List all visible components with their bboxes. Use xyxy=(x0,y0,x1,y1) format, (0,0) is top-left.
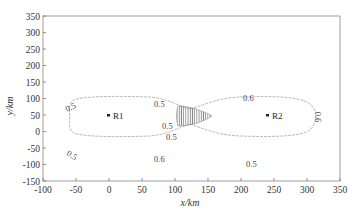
contour-label: 0.6 xyxy=(313,112,323,123)
y-tick-label: -100 xyxy=(23,160,41,170)
contour-label: 0.6 xyxy=(154,154,165,164)
x-tick-label: 150 xyxy=(201,185,216,195)
y-axis xyxy=(43,16,46,181)
y-tick-label: 150 xyxy=(26,78,41,88)
y-tick-label: 250 xyxy=(26,45,41,55)
y-tick-label: 0 xyxy=(35,127,40,137)
x-tick-label: 350 xyxy=(333,185,348,195)
y-tick-label: 100 xyxy=(26,94,41,104)
x-tick-label: 300 xyxy=(300,185,315,195)
y-tick-label: 350 xyxy=(26,12,41,22)
x-tick-label: 50 xyxy=(137,185,147,195)
contour-label: 0.5 xyxy=(162,121,173,131)
y-tick-label: -50 xyxy=(27,144,40,154)
x-tick-label: 0 xyxy=(107,185,112,195)
y-axis-label: y/km xyxy=(4,97,15,117)
x-tick-label: 250 xyxy=(267,185,282,195)
station-r2-marker xyxy=(266,114,269,117)
station-r1-label: R1 xyxy=(113,111,124,121)
x-tick-label: -100 xyxy=(34,185,52,195)
y-tick-label: 300 xyxy=(26,28,41,38)
y-tick-label: 200 xyxy=(26,61,41,71)
contour-chart: 350 300 250 200 150 100 50 0 -50 -100 -1… xyxy=(0,0,357,217)
x-tick-label: 200 xyxy=(234,185,249,195)
x-tick-label: -50 xyxy=(70,185,83,195)
contour-label: 0.5 xyxy=(65,148,79,162)
contour-label: 0.5 xyxy=(64,100,78,114)
contour-label: 0.5 xyxy=(166,132,177,142)
y-tick-label: 50 xyxy=(31,111,41,121)
x-axis xyxy=(43,178,340,181)
contour-label: 0.5 xyxy=(246,159,257,169)
x-axis-label: x/km xyxy=(180,197,200,208)
hatched-region xyxy=(177,106,213,126)
contour-label: 0.6 xyxy=(243,93,254,103)
x-tick-label: 100 xyxy=(168,185,183,195)
station-r1-marker xyxy=(107,114,110,117)
station-r2-label: R2 xyxy=(272,111,283,121)
contour-label: 0.5 xyxy=(154,99,165,109)
